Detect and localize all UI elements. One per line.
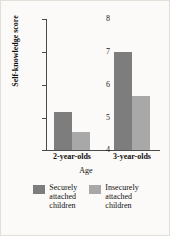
legend-label-securely-attached: Securely attached children [49,184,77,211]
bar-2-year-olds-insecurely-attached [72,132,90,150]
x-axis-title: Age [1,167,170,175]
y-tick-mark-7 [42,52,47,53]
bar-chart-figure: Self-knowledge score 8 7 6 5 4 2-year-ol… [0,0,170,236]
y-tick-label-7: 7 [106,48,110,56]
y-tick-label-6: 6 [106,81,110,89]
legend-label-insecurely-attached: Insecurely attached children [105,184,138,211]
x-tick-label-3-year-olds: 3-year-olds [106,153,158,161]
x-tick-label-2-year-olds: 2-year-olds [46,153,98,161]
bar-3-year-olds-securely-attached [114,52,132,150]
chart-legend: Securely attached children Insecurely at… [1,184,170,211]
legend-swatch-insecure-icon [89,185,101,194]
y-tick-mark-5 [42,118,47,119]
legend-swatch-secure-icon [33,185,45,194]
y-axis-title: Self-knowledge score [12,0,20,121]
y-tick-mark-8 [42,19,47,20]
legend-item-insecurely-attached: Insecurely attached children [89,184,138,211]
bar-3-year-olds-insecurely-attached [132,96,150,150]
bar-2-year-olds-securely-attached [54,112,72,150]
y-tick-mark-4 [42,150,47,151]
y-tick-label-5: 5 [106,114,110,122]
y-tick-label-8: 8 [106,15,110,23]
legend-item-securely-attached: Securely attached children [33,184,77,211]
plot-area: 8 7 6 5 4 [46,19,160,151]
x-axis-line [46,150,160,151]
y-tick-mark-6 [42,85,47,86]
